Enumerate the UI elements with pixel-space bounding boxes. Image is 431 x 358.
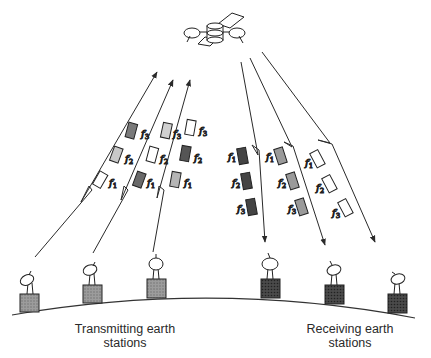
svg-text:f1: f1 bbox=[183, 177, 192, 190]
rx-station-1 bbox=[261, 253, 280, 298]
uplink-beam-2 bbox=[93, 80, 173, 253]
svg-text:f1: f1 bbox=[304, 157, 313, 170]
svg-text:f2: f2 bbox=[277, 177, 286, 190]
receiving-stations bbox=[261, 253, 407, 313]
svg-text:f3: f3 bbox=[287, 203, 296, 216]
rx-station-3 bbox=[388, 272, 407, 313]
downlink-carriers: f1 f2 f3 f1 f2 f3 f1 f2 f3 bbox=[227, 147, 353, 220]
svg-text:f2: f2 bbox=[159, 153, 168, 166]
uplink-carriers: f1 f2 f3 f1 f2 f3 f1 f2 f3 bbox=[93, 119, 208, 190]
transmitting-label-line1: Transmitting earth bbox=[40, 322, 210, 336]
transmitting-label-line2: stations bbox=[40, 336, 210, 350]
downlink-beams bbox=[241, 52, 375, 245]
svg-text:f2: f2 bbox=[193, 152, 202, 165]
svg-text:f1: f1 bbox=[108, 177, 117, 190]
svg-text:f2: f2 bbox=[315, 182, 324, 195]
svg-text:f3: f3 bbox=[331, 207, 340, 220]
svg-text:f1: f1 bbox=[146, 177, 155, 190]
svg-text:f3: f3 bbox=[236, 203, 245, 216]
svg-text:f1: f1 bbox=[227, 151, 236, 164]
svg-text:f3: f3 bbox=[140, 128, 149, 141]
earth-surface bbox=[12, 298, 415, 318]
tx-station-2 bbox=[82, 262, 102, 303]
svg-text:f2: f2 bbox=[231, 177, 240, 190]
tx-station-3 bbox=[147, 254, 166, 298]
tx-station-1 bbox=[19, 271, 39, 312]
downlink-beam-3 bbox=[262, 52, 375, 242]
uplink-beam-1 bbox=[35, 72, 157, 257]
rx-station-2 bbox=[325, 261, 344, 304]
svg-text:f1: f1 bbox=[265, 151, 274, 164]
transmitting-stations bbox=[19, 254, 166, 312]
receiving-stations-label: Receiving earth stations bbox=[270, 322, 430, 350]
receiving-label-line2: stations bbox=[270, 336, 430, 350]
satellite-fdma-diagram: f1 f2 f3 f1 f2 f3 f1 f2 f3 f1 f2 f3 f1 f… bbox=[0, 0, 431, 358]
receiving-label-line1: Receiving earth bbox=[270, 322, 430, 336]
uplink-beam-3 bbox=[153, 80, 190, 252]
svg-text:f2: f2 bbox=[124, 153, 133, 166]
satellite-icon bbox=[184, 13, 245, 46]
svg-text:f3: f3 bbox=[198, 125, 207, 138]
transmitting-stations-label: Transmitting earth stations bbox=[40, 322, 210, 350]
